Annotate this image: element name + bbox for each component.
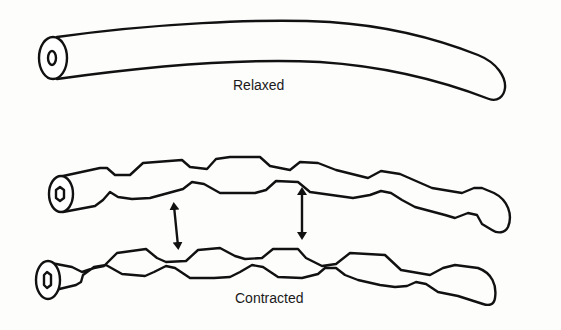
diagram-svg <box>0 0 561 330</box>
double-arrow-left-icon <box>174 206 178 246</box>
relaxed-tube-end <box>39 37 67 79</box>
contracted-upper-end <box>49 176 73 212</box>
label-contracted: Contracted <box>235 290 303 306</box>
diagram-canvas: Relaxed Contracted <box>0 0 561 330</box>
contracted-lower-end <box>36 261 60 299</box>
contracted-tube-upper <box>49 157 510 232</box>
label-relaxed: Relaxed <box>233 77 284 93</box>
